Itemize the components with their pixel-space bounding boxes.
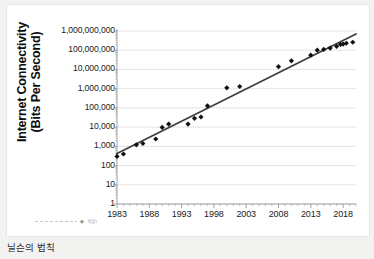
x-axis-tick-label: 1998 bbox=[197, 209, 231, 219]
data-point-marker bbox=[237, 84, 242, 89]
x-axis-tick-label: 2018 bbox=[326, 209, 360, 219]
data-point-marker bbox=[276, 64, 281, 69]
x-axis-tick-label: 1988 bbox=[132, 209, 166, 219]
screenshot-root: Internet Connectivity (Bits Per Second) … bbox=[0, 0, 374, 259]
chart-plot-area bbox=[7, 5, 369, 236]
x-axis-tick-label: 1993 bbox=[165, 209, 199, 219]
data-point-marker bbox=[153, 136, 158, 141]
chart-card: Internet Connectivity (Bits Per Second) … bbox=[6, 4, 370, 237]
data-point-marker bbox=[114, 154, 119, 159]
data-point-marker bbox=[224, 85, 229, 90]
legend-marker-icon: ◆ bbox=[80, 218, 84, 224]
legend-series-label: 계열1 bbox=[87, 218, 97, 224]
chart-legend: ◆ 계열1 bbox=[35, 218, 97, 224]
x-axis-tick-label: 2013 bbox=[294, 209, 328, 219]
legend-line-icon bbox=[35, 221, 77, 222]
data-point-marker bbox=[289, 58, 294, 63]
x-axis-tick-label: 2008 bbox=[261, 209, 295, 219]
figure-caption: 닐슨의 법칙 bbox=[7, 240, 55, 254]
x-axis-tick-label: 1983 bbox=[100, 209, 134, 219]
data-point-marker bbox=[350, 40, 355, 45]
x-axis-tick-label: 2003 bbox=[229, 209, 263, 219]
data-point-marker bbox=[185, 121, 190, 126]
trendline bbox=[117, 34, 356, 154]
chart-figure: Internet Connectivity (Bits Per Second) … bbox=[7, 5, 369, 236]
data-point-marker bbox=[198, 114, 203, 119]
